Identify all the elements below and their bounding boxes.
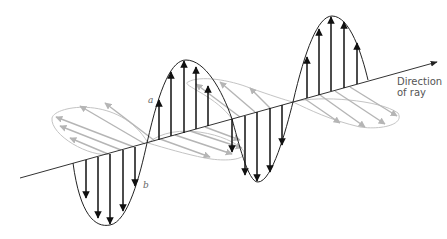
direction-axis: [20, 62, 437, 178]
point-a-label: a: [148, 95, 153, 106]
point-b-label: b: [143, 180, 149, 191]
horizontal-wave-arrows: [56, 82, 397, 157]
vertical-wave-curve: [73, 16, 368, 225]
direction-of-ray-label: Direction of ray: [397, 76, 442, 98]
wave-diagram: [0, 0, 447, 239]
direction-label-line1: Direction: [397, 76, 442, 87]
direction-label-line2: of ray: [397, 87, 442, 98]
